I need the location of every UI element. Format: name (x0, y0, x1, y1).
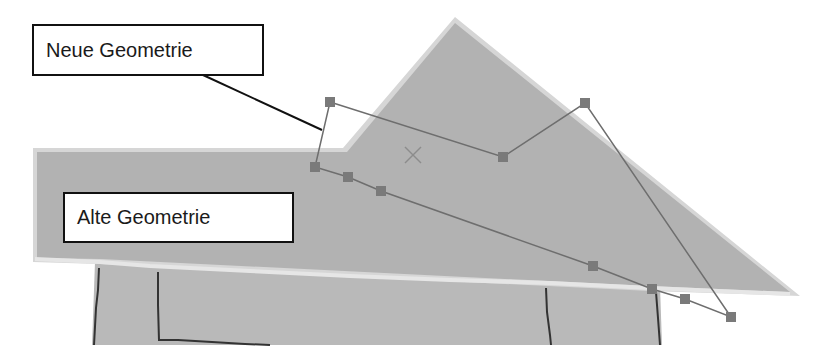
vertex-handle[interactable] (498, 152, 508, 162)
vertex-handle[interactable] (726, 312, 736, 322)
label-new-geometry-text: Neue Geometrie (46, 39, 193, 62)
vertex-handle[interactable] (580, 98, 590, 108)
vertex-handle[interactable] (343, 172, 353, 182)
label-new-geometry: Neue Geometrie (32, 24, 264, 76)
vertex-handle[interactable] (325, 97, 335, 107)
label-old-geometry-text: Alte Geometrie (77, 206, 210, 229)
label-old-geometry: Alte Geometrie (63, 192, 294, 243)
vertex-handle[interactable] (588, 261, 598, 271)
leader-line (203, 75, 322, 130)
vertex-handle[interactable] (680, 294, 690, 304)
vertex-handle[interactable] (310, 162, 320, 172)
vertex-handle[interactable] (376, 186, 386, 196)
vertex-handle[interactable] (647, 284, 657, 294)
